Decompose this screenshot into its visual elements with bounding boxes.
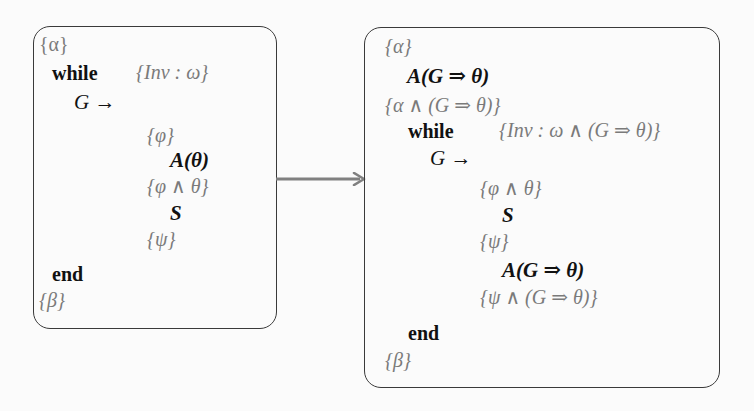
assertion-phi: {φ} <box>147 125 174 145</box>
assertion-psi-and-guard-implies-theta: {ψ ∧ (G ⇒ θ)} <box>480 287 597 307</box>
assertion-phi-and-theta: {φ ∧ θ} <box>147 176 209 196</box>
body-statement-s: S <box>170 203 182 224</box>
precondition-alpha: {α} <box>385 36 412 56</box>
body-statement-s: S <box>502 205 514 226</box>
loop-guard: G → <box>74 92 115 113</box>
while-keyword: while <box>52 63 98 83</box>
assume-guard-implies-theta-statement: A(G ⇒ θ) <box>407 66 489 87</box>
postcondition-beta: {β} <box>385 350 411 370</box>
assertion-alpha-and-guard-implies-theta: {α ∧ (G ⇒ θ)} <box>385 95 500 115</box>
assertion-psi: {ψ} <box>480 231 508 251</box>
postcondition-beta: {β} <box>39 290 65 310</box>
precondition-alpha: {α} <box>39 34 69 54</box>
assertion-phi-and-theta: {φ ∧ θ} <box>480 178 542 198</box>
end-keyword: end <box>52 264 83 284</box>
while-keyword: while <box>408 121 454 141</box>
assertion-psi: {ψ} <box>147 229 175 249</box>
loop-guard: G → <box>430 148 471 169</box>
assume-guard-implies-theta-statement-inner: A(G ⇒ θ) <box>502 260 584 281</box>
loop-invariant: {Inv : ω ∧ (G ⇒ θ)} <box>499 120 660 140</box>
loop-invariant: {Inv : ω} <box>136 62 208 82</box>
assume-theta-statement: A(θ) <box>170 150 209 171</box>
right-arrow-icon <box>276 172 366 186</box>
end-keyword: end <box>408 323 439 343</box>
